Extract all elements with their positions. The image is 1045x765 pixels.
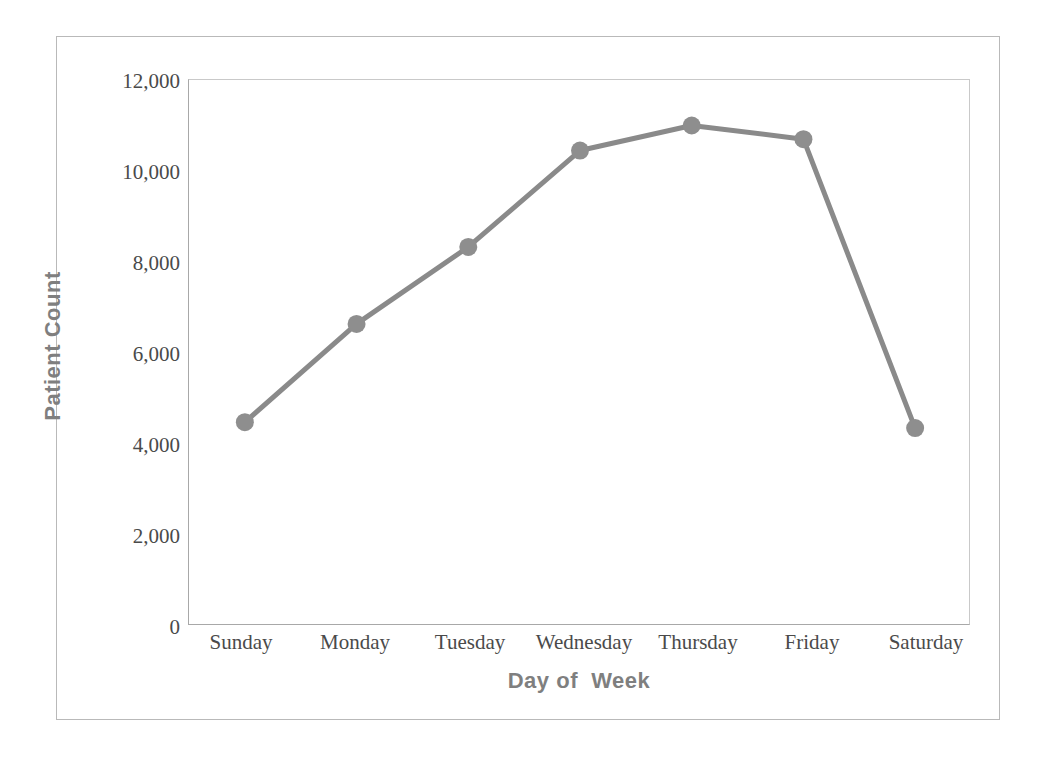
line-series-patient-count [189, 80, 971, 626]
data-point-tuesday [459, 238, 477, 256]
data-point-friday [794, 130, 812, 148]
y-tick-label-12000: 12,000 [40, 71, 180, 92]
x-tick-label-sunday: Sunday [210, 632, 273, 653]
y-tick-label-2000: 2,000 [40, 526, 180, 547]
x-tick-label-monday: Monday [320, 632, 390, 653]
x-tick-label-tuesday: Tuesday [435, 632, 505, 653]
x-axis-tick-labels: Sunday Monday Tuesday Wednesday Thursday… [188, 632, 970, 666]
x-tick-label-saturday: Saturday [889, 632, 964, 653]
y-tick-label-0: 0 [40, 617, 180, 638]
y-tick-label-10000: 10,000 [40, 162, 180, 183]
data-point-wednesday [571, 142, 589, 160]
data-point-saturday [906, 419, 924, 437]
chart-figure: 12,000 10,000 8,000 6,000 4,000 2,000 0 … [0, 0, 1045, 765]
plot-area [188, 79, 970, 625]
x-tick-label-thursday: Thursday [658, 632, 737, 653]
y-axis-title: Patient Count [40, 226, 66, 466]
x-tick-label-friday: Friday [785, 632, 840, 653]
x-axis-title: Day of Week [188, 668, 970, 694]
data-point-thursday [683, 117, 701, 135]
x-tick-label-wednesday: Wednesday [536, 632, 632, 653]
data-point-monday [348, 315, 366, 333]
data-point-sunday [236, 413, 254, 431]
series-markers [236, 117, 924, 438]
series-line-path [245, 126, 915, 429]
